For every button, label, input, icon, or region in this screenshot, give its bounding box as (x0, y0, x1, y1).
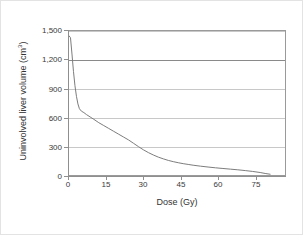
y-tick-label-300: 300 (49, 144, 62, 152)
y-axis-title-superscript: 3 (17, 45, 23, 48)
chart-figure: 1,500 1,200 900 600 300 0 0 15 30 45 60 … (0, 0, 303, 235)
y-axis-line (68, 30, 69, 177)
y-tick-label-600: 600 (49, 115, 62, 123)
y-axis-title-close: ) (18, 42, 28, 45)
x-tick-label-0: 0 (66, 181, 70, 189)
x-axis-title: Dose (Gy) (68, 197, 286, 207)
y-tick-label-1200: 1,200 (42, 56, 62, 64)
y-axis-title-text: Uninvolved liver volume (cm (18, 48, 28, 161)
x-tick-label-45: 45 (177, 181, 186, 189)
plot-area (68, 30, 286, 176)
x-tick-label-75: 75 (252, 181, 261, 189)
y-tick-label-1500: 1,500 (42, 27, 62, 35)
y-axis-title: Uninvolved liver volume (cm3) (18, 26, 28, 176)
y-tick-label-900: 900 (49, 86, 62, 94)
x-tick-label-30: 30 (139, 181, 148, 189)
x-axis-line (68, 176, 286, 177)
y-axis-tick-labels: 1,500 1,200 900 600 300 0 (1, 1, 62, 235)
x-tick-label-60: 60 (214, 181, 223, 189)
x-tick-label-15: 15 (102, 181, 111, 189)
dvh-curve (69, 31, 285, 175)
y-tick-label-0: 0 (58, 173, 62, 181)
